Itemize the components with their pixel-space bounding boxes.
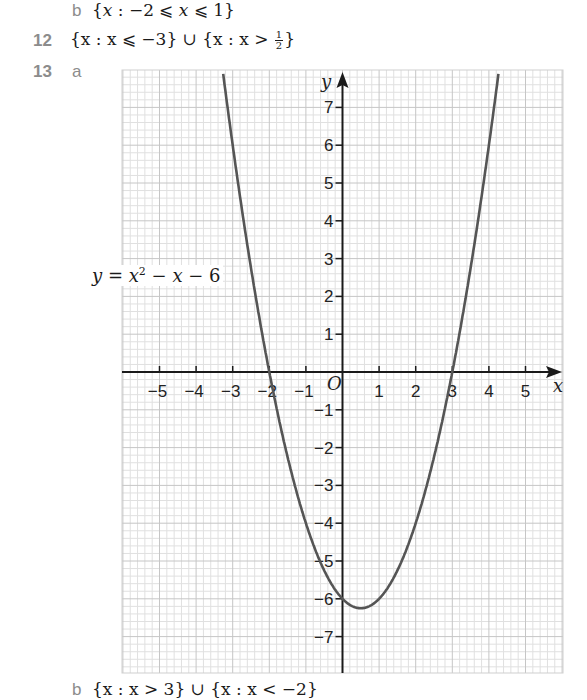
question-13b-label: b	[72, 680, 81, 700]
svg-text:2: 2	[411, 382, 420, 401]
equation-label: y = x2 − x − 6	[90, 265, 223, 286]
tick-labels: −5−4−3−2−112345−7−6−5−4−3−2−11234567xyO	[148, 71, 563, 647]
svg-text:−6: −6	[314, 590, 333, 609]
svg-text:O: O	[327, 373, 342, 394]
svg-text:−5: −5	[148, 382, 167, 401]
svg-text:−3: −3	[221, 382, 240, 401]
svg-text:5: 5	[324, 174, 333, 193]
svg-text:−1: −1	[314, 401, 333, 420]
svg-text:6: 6	[324, 136, 333, 155]
svg-text:3: 3	[324, 250, 333, 269]
svg-text:1: 1	[324, 325, 333, 344]
svg-text:−1: −1	[294, 382, 313, 401]
svg-text:−4: −4	[314, 514, 333, 533]
svg-text:−4: −4	[184, 382, 203, 401]
svg-text:5: 5	[521, 382, 530, 401]
svg-text:4: 4	[324, 212, 333, 231]
svg-text:−2: −2	[314, 439, 333, 458]
svg-text:4: 4	[484, 382, 493, 401]
svg-text:−3: −3	[314, 476, 333, 495]
svg-text:7: 7	[324, 98, 333, 117]
svg-text:−7: −7	[314, 628, 333, 647]
svg-text:y: y	[320, 71, 332, 92]
svg-text:x: x	[553, 375, 563, 396]
svg-text:2: 2	[324, 287, 333, 306]
svg-text:1: 1	[374, 382, 383, 401]
question-13b-answer-cutoff: {x : x > 3} ∪ {x : x < −2}	[92, 679, 318, 699]
parabola-curve	[223, 74, 498, 609]
